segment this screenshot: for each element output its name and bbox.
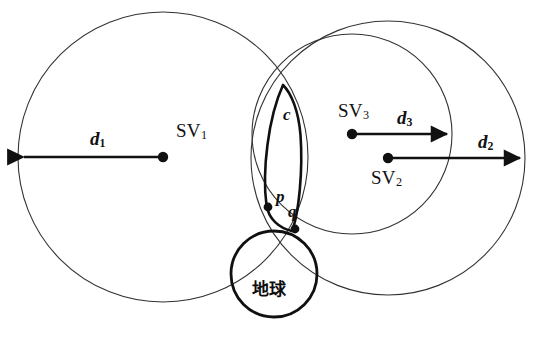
point-q-marker [291, 225, 300, 234]
point-q-label: q [288, 203, 297, 220]
earth-circle [231, 231, 317, 317]
sv3-marker [347, 129, 357, 139]
sv3-label: SV3 [338, 101, 369, 121]
point-p-label: p [276, 188, 285, 205]
lens-c-label: c [283, 106, 291, 123]
d3-label: d3 [397, 108, 412, 129]
figure-canvas: SV1 d1 SV3 d3 SV2 d2 c p q 地球 [0, 0, 537, 341]
earth-label: 地球 [252, 281, 286, 298]
d2-label: d2 [478, 132, 493, 153]
d1-label: d1 [90, 129, 105, 150]
point-p-marker [264, 203, 273, 212]
sv2-label: SV2 [371, 168, 402, 188]
sv1-label: SV1 [176, 121, 207, 141]
sv1-marker [158, 152, 168, 162]
sv2-marker [383, 153, 393, 163]
